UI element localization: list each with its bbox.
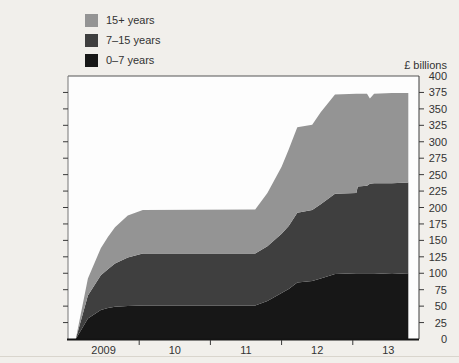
legend-swatch-0-7-icon <box>85 54 98 67</box>
y-tick-label: 300 <box>429 136 447 148</box>
y-tick-label: 400 <box>429 70 447 82</box>
y-tick-label: 0 <box>441 333 447 345</box>
y-tick-label: 325 <box>429 119 447 131</box>
y-tick-label: 250 <box>429 169 447 181</box>
legend-item-0-7-years: 0–7 years <box>85 54 160 67</box>
y-tick-label: 100 <box>429 267 447 279</box>
y-tick-label: 350 <box>429 103 447 115</box>
x-tick-label: 12 <box>311 344 323 356</box>
x-tick-label: 10 <box>169 344 181 356</box>
y-tick-label: 175 <box>429 218 447 230</box>
y-tick-label: 25 <box>435 317 447 329</box>
y-tick-label: 75 <box>435 284 447 296</box>
legend-swatch-7-15-icon <box>85 34 98 47</box>
y-axis-title: £ billions <box>404 59 447 71</box>
y-tick-label: 125 <box>429 251 447 263</box>
legend-item-7-15-years: 7–15 years <box>85 34 160 47</box>
x-tick-label: 2009 <box>91 344 115 356</box>
legend-label-0-7: 0–7 years <box>106 54 154 67</box>
legend-item-15plus-years: 15+ years <box>85 14 160 27</box>
page: { "legend": { "items": [ {"label": "15+ … <box>0 0 459 363</box>
legend-swatch-15plus-icon <box>85 14 98 27</box>
y-tick-label: 375 <box>429 86 447 98</box>
legend-label-15plus: 15+ years <box>106 14 155 27</box>
stacked-area-chart: 0255075100125150175200225250275300325350… <box>0 0 459 363</box>
x-tick-label: 13 <box>382 344 394 356</box>
legend-label-7-15: 7–15 years <box>106 34 160 47</box>
y-tick-label: 275 <box>429 152 447 164</box>
legend: 15+ years 7–15 years 0–7 years <box>85 14 160 74</box>
y-tick-label: 50 <box>435 300 447 312</box>
y-tick-label: 150 <box>429 234 447 246</box>
x-tick-label: 11 <box>240 344 251 356</box>
y-tick-label: 200 <box>429 202 447 214</box>
y-tick-label: 225 <box>429 185 447 197</box>
